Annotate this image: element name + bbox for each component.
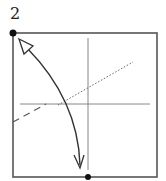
valley-fold-line bbox=[13, 104, 46, 122]
fold-arrow-curve bbox=[27, 48, 80, 165]
fold-diagram bbox=[0, 0, 166, 181]
mountain-fold-line bbox=[58, 62, 133, 105]
paper-square bbox=[13, 33, 157, 177]
bottom-center-dot bbox=[85, 174, 91, 180]
corner-dot bbox=[10, 30, 17, 37]
